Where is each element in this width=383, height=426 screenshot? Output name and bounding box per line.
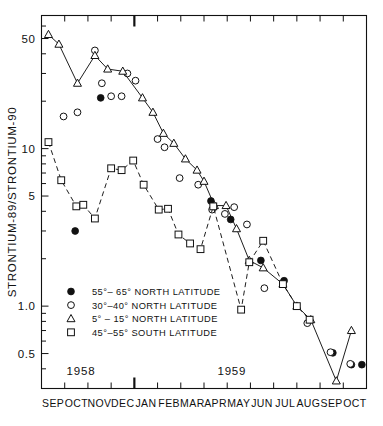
data-point-open-square [80,201,87,208]
data-point-open-square [140,181,147,188]
y-axis-title: STRONTIUM-89/STRONTIUM-90 [6,107,18,298]
data-point-open-triangle [73,79,81,86]
x-tick-label: AUG [296,397,320,409]
data-point-open-square [246,259,253,266]
data-point-filled-circle [358,361,365,368]
data-point-open-square [45,139,52,146]
data-point-open-circle [161,144,168,151]
data-point-open-square [260,237,267,244]
data-point-open-circle [347,360,354,367]
data-point-open-square [68,329,75,336]
data-point-open-square [175,231,182,238]
legend-label: 45°–55° SOUTH LATITUDE [92,328,217,338]
data-point-open-square [130,157,137,164]
data-point-open-circle [132,77,139,84]
data-point-open-circle [176,175,183,182]
data-point-open-square [187,240,194,247]
x-tick-label: DEC [111,397,134,409]
data-point-open-square [165,205,172,212]
data-point-open-triangle [347,326,355,333]
data-point-open-circle [108,93,115,100]
data-point-open-square [197,246,204,253]
data-point-open-square [73,203,80,210]
data-point-open-triangle [233,225,241,232]
data-point-open-triangle [332,377,340,384]
y-tick-label: 1.0 [18,300,36,312]
data-point-open-square [91,215,98,222]
data-point-open-square [293,303,300,310]
data-point-open-triangle [222,201,230,208]
data-point-open-square [108,165,115,172]
x-tick-label: JUN [251,397,273,409]
period-label: 1958 [67,365,96,377]
x-tick-label: FEB [158,397,180,409]
data-point-open-square [238,306,245,313]
data-point-filled-circle [68,288,75,295]
x-tick-label: MAY [227,397,250,409]
y-tick-label: 50 [22,33,36,45]
data-point-open-square [306,316,313,323]
data-point-open-circle [221,211,228,218]
data-point-open-triangle [259,264,267,271]
data-point-open-square [58,177,65,184]
data-point-open-circle [118,93,125,100]
y-tick-label: 10 [22,143,36,155]
data-point-open-circle [244,221,251,228]
legend-label: 55°– 65° NORTH LATITUDE [92,287,221,297]
data-point-open-triangle [44,30,52,37]
data-point-open-triangle [200,177,208,184]
data-point-filled-circle [97,94,104,101]
data-point-open-circle [231,204,238,211]
data-point-open-square [118,167,125,174]
strontium-ratio-chart: 501051.00.5STRONTIUM-89/STRONTIUM-90SEPO… [0,0,383,426]
data-point-open-circle [68,302,75,309]
legend-label: 30°–40° NORTH LATITUDE [92,301,218,311]
period-label: 1959 [217,365,246,377]
x-tick-label: NOV [88,397,112,409]
data-point-open-square [280,281,287,288]
x-tick-label: MAR [180,397,205,409]
data-point-open-circle [74,109,81,116]
data-point-filled-circle [72,228,79,235]
x-tick-label: JUL [275,397,295,409]
data-point-open-square [155,206,162,213]
legend-label: 5° – 15° NORTH LATITUDE [92,314,218,324]
chart-figure: 501051.00.5STRONTIUM-89/STRONTIUM-90SEPO… [0,0,383,426]
data-point-open-circle [327,349,334,356]
data-point-open-circle [261,285,268,292]
x-axis: SEPOCTNOVDECJANFEBMARAPRMAYJUNJULAUGSEPO… [42,16,367,409]
x-tick-label: JAN [135,397,156,409]
data-point-open-triangle [67,315,75,322]
data-point-open-triangle [159,129,167,136]
legend: 55°– 65° NORTH LATITUDE30°–40° NORTH LAT… [67,287,221,338]
x-tick-label: SEP [42,397,64,409]
y-tick-label: 5 [29,190,36,202]
data-point-open-circle [60,113,67,120]
data-point-open-square [210,203,217,210]
y-tick-label: 0.5 [18,348,36,360]
y-axis: 501051.00.5 [18,16,49,389]
x-tick-label: APR [204,397,227,409]
x-tick-label: OCT [65,397,89,409]
data-point-open-circle [98,80,105,87]
x-tick-label: OCT [343,397,367,409]
x-tick-label: SEP [321,397,343,409]
